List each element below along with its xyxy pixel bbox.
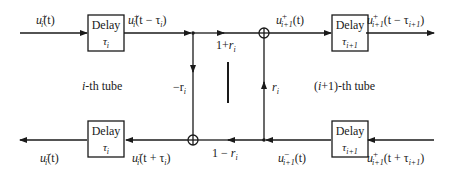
delay-param: τi bbox=[88, 142, 124, 156]
delay-title: Delay bbox=[332, 125, 368, 137]
tau-subscript: i bbox=[107, 147, 109, 156]
label-u-i1-minus-t: u−i+1(t) bbox=[278, 150, 306, 167]
label-one-minus-r-i: 1 − ri bbox=[212, 147, 238, 162]
tau-subscript: i+1 bbox=[346, 147, 358, 156]
label-i-th-tube: i-th tube bbox=[82, 80, 122, 92]
delay-title: Delay bbox=[332, 19, 368, 31]
delay-box-upper-right-label: Delay τi+1 bbox=[332, 19, 368, 50]
branch-dot-lower bbox=[262, 138, 266, 142]
label-u-i1-plus-t: u+i+1(t) bbox=[276, 12, 304, 29]
delay-box-upper-left-label: Delay τi bbox=[88, 19, 124, 50]
label-u-i1-plus-t-minus-tau-i1: u+i+1(t − τi+1) bbox=[367, 12, 424, 29]
delay-param: τi bbox=[88, 36, 124, 50]
tau-subscript: i+1 bbox=[346, 41, 358, 50]
label-neg-r-i: −ri bbox=[173, 81, 186, 96]
label-u-i-plus-t: u+i(t) bbox=[36, 12, 55, 29]
label-one-plus-r-i: 1+ri bbox=[216, 39, 236, 54]
label-u-i-minus-t-plus-tau-i: u−i(t + τi) bbox=[132, 150, 170, 167]
label-u-i-plus-t-minus-tau-i: u+i(t − τi) bbox=[128, 12, 166, 29]
delay-title: Delay bbox=[88, 19, 124, 31]
label-i1-th-tube: (i+1)-th tube bbox=[314, 80, 375, 92]
delay-param: τi+1 bbox=[332, 142, 368, 156]
label-u-i-minus-t: u−i(t) bbox=[40, 150, 59, 167]
delay-param: τi+1 bbox=[332, 36, 368, 50]
delay-box-lower-right-label: Delay τi+1 bbox=[332, 125, 368, 156]
label-u-i1-plus-t-plus-tau-i1: u+i+1(t + τi+1) bbox=[367, 150, 424, 167]
delay-title: Delay bbox=[88, 125, 124, 137]
label-r-i: ri bbox=[272, 81, 279, 96]
tau-subscript: i bbox=[107, 41, 109, 50]
branch-dot-upper bbox=[191, 31, 195, 35]
delay-box-lower-left-label: Delay τi bbox=[88, 125, 124, 156]
